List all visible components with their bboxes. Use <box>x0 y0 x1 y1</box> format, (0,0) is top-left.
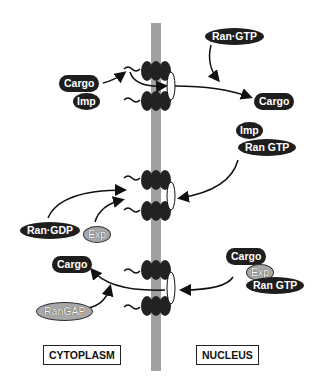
ran-gdp-molecule: Ran·GDP <box>20 222 80 239</box>
ran-gtp-molecule: Ran·GTP <box>205 28 264 45</box>
ran-gtp-recycle-molecule: Ran GTP <box>238 139 296 156</box>
rangap-molecule: RanGAP <box>36 302 93 321</box>
diagram-canvas <box>0 0 312 385</box>
importin-molecule: Imp <box>73 93 100 110</box>
released-cargo-nucleus: Cargo <box>254 93 294 110</box>
released-cargo-cytoplasm: Cargo <box>52 256 92 273</box>
cargo-import-molecule: Cargo <box>59 75 99 92</box>
exp-cytoplasm-molecule: Exp <box>83 226 111 243</box>
imp-recycle-molecule: Imp <box>236 122 263 139</box>
cytoplasm-label: CYTOPLASM <box>43 345 121 365</box>
cargo-export-molecule: Cargo <box>226 248 266 265</box>
nuclear-pore-complex-2 <box>124 170 175 221</box>
nucleus-label: NUCLEUS <box>196 345 259 365</box>
ran-gtp-export-molecule: Ran GTP <box>246 277 304 294</box>
